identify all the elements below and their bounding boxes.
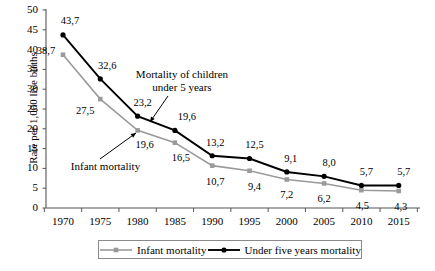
- data-label-infant-1980: 19,6: [128, 139, 162, 150]
- marker-under-five-2010: [359, 183, 364, 188]
- marker-under-five-1990: [210, 153, 215, 158]
- annotation-infant-line1: Infant mortality: [58, 160, 153, 173]
- data-label-under-five-2010: 5,7: [349, 166, 383, 177]
- annotation-under-five-line2: under 5 years: [122, 81, 242, 94]
- data-label-under-five-2000: 9,1: [274, 153, 308, 164]
- x-tick-label: 2015: [376, 215, 422, 227]
- data-label-under-five-1985: 19,6: [170, 111, 204, 122]
- legend-item-infant[interactable]: Infant mortality: [99, 244, 206, 256]
- marker-under-five-1970: [60, 32, 65, 37]
- marker-under-five-1985: [172, 128, 177, 133]
- marker-under-five-1975: [98, 76, 103, 81]
- y-tick-label: 30: [14, 82, 38, 94]
- y-tick-label: 45: [14, 23, 38, 35]
- marker-infant-2015: [396, 189, 401, 194]
- y-tick-label: 15: [14, 142, 38, 154]
- data-label-under-five-1980: 23,2: [126, 97, 160, 108]
- marker-under-five-2005: [322, 174, 327, 179]
- data-label-infant-1990: 10,7: [198, 176, 232, 187]
- marker-infant-1985: [173, 140, 178, 145]
- marker-under-five-1995: [247, 156, 252, 161]
- legend: Infant mortalityUnder five years mortali…: [98, 240, 362, 259]
- data-label-under-five-1975: 32,6: [90, 60, 124, 71]
- data-label-infant-2015: 4,3: [384, 201, 418, 212]
- data-label-infant-1985: 16,5: [164, 152, 198, 163]
- data-label-infant-2010: 4,5: [345, 200, 379, 211]
- data-label-infant-1970: 38,7: [29, 45, 63, 56]
- data-label-infant-1975: 27,5: [68, 105, 102, 116]
- mortality-rate-line-chart: Rate per 1,000 live births 0510152025303…: [0, 0, 435, 271]
- plot-area: [0, 0, 435, 271]
- annotation-under-five: Mortality of children under 5 years: [122, 68, 242, 94]
- legend-label-under-five: Under five years mortality: [245, 244, 361, 256]
- marker-infant-1980: [135, 128, 140, 133]
- marker-infant-2005: [322, 181, 327, 186]
- y-tick-label: 20: [14, 122, 38, 134]
- data-label-infant-1995: 9,4: [238, 181, 272, 192]
- marker-under-five-2015: [396, 183, 401, 188]
- data-label-under-five-1990: 13,2: [198, 137, 232, 148]
- marker-infant-2010: [359, 188, 364, 193]
- y-tick-label: 35: [14, 62, 38, 74]
- data-label-infant-2005: 6,2: [307, 193, 341, 204]
- data-label-under-five-1970: 43,7: [53, 15, 87, 26]
- legend-swatch-infant: [99, 245, 133, 255]
- marker-infant-1990: [210, 163, 215, 168]
- y-tick-label: 25: [14, 102, 38, 114]
- marker-under-five-1980: [135, 114, 140, 119]
- marker-infant-1995: [247, 168, 252, 173]
- annotation-under-five-line1: Mortality of children: [122, 68, 242, 81]
- data-label-under-five-2015: 5,7: [387, 166, 421, 177]
- data-label-infant-2000: 7,2: [270, 189, 304, 200]
- data-label-under-five-2005: 8,0: [312, 157, 346, 168]
- legend-item-under-five[interactable]: Under five years mortality: [207, 244, 361, 256]
- y-tick-label: 10: [14, 161, 38, 173]
- y-tick-label: 5: [14, 181, 38, 193]
- annotation-arrow-infant-head: [131, 133, 136, 138]
- y-tick-label: 0: [14, 201, 38, 213]
- marker-infant-1975: [98, 97, 103, 102]
- marker-infant-2000: [285, 177, 290, 182]
- legend-swatch-under-five: [207, 245, 241, 255]
- legend-label-infant: Infant mortality: [137, 244, 206, 256]
- marker-under-five-2000: [284, 169, 289, 174]
- data-label-under-five-1995: 12,5: [238, 139, 272, 150]
- y-tick-label: 50: [14, 3, 38, 15]
- annotation-infant: Infant mortality: [58, 160, 153, 173]
